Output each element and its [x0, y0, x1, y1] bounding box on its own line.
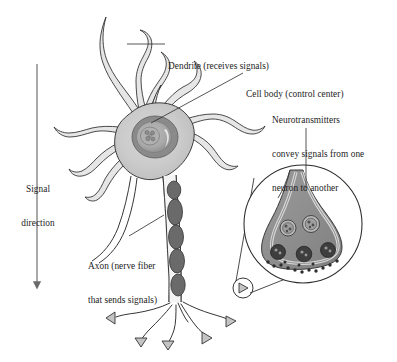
dendrite-branch — [100, 17, 141, 113]
chromatin-dot — [149, 134, 152, 137]
terminal-button — [226, 316, 236, 327]
label-signal-direction: Signal direction — [11, 161, 65, 252]
label-axon-line-2: that sends signals) — [88, 295, 157, 306]
label-neurotransmitters: Neurotransmitters convey signals from on… — [272, 92, 364, 217]
chromatin-dot — [145, 130, 149, 134]
dendrite-branch — [190, 133, 238, 170]
terminal-button — [202, 332, 212, 344]
myelin-segment — [168, 199, 183, 225]
myelin-segment — [169, 225, 184, 249]
terminal-button — [162, 341, 174, 350]
terminal-button — [135, 338, 147, 347]
neuron-diagram: Dendrite (receives signals) Cell body (c… — [0, 0, 397, 362]
label-axon: Axon (nerve fiber that sends signals) — [88, 238, 157, 329]
vesicle-releasing — [296, 246, 312, 262]
myelin-segment — [170, 249, 185, 273]
vesicle-releasing — [321, 243, 336, 258]
myelin-segment — [171, 274, 185, 296]
label-axon-line-1: Axon (nerve fiber — [88, 261, 157, 272]
label-signal-direction-line-2: direction — [11, 218, 65, 229]
label-signal-direction-line-1: Signal — [11, 184, 65, 195]
nucleus — [132, 116, 178, 158]
terminal-branch — [181, 304, 207, 336]
terminal-branch — [168, 305, 176, 343]
leader-axon — [129, 215, 164, 236]
vesicle-releasing — [271, 245, 286, 260]
chromatin-dot — [151, 137, 155, 141]
myelin-segment — [167, 181, 181, 199]
dendrite-branch — [54, 126, 119, 137]
label-neurotransmitters-line-2: convey signals from one — [272, 149, 364, 160]
label-neurotransmitters-line-3: neuron to another — [272, 183, 364, 194]
dendrite-branch — [145, 52, 170, 108]
label-neurotransmitters-line-1: Neurotransmitters — [272, 115, 364, 126]
